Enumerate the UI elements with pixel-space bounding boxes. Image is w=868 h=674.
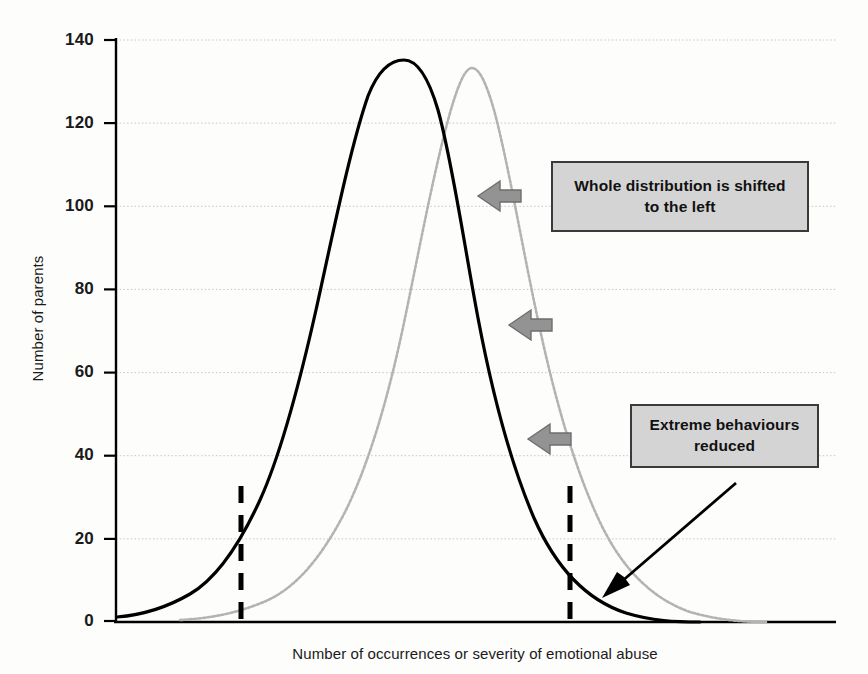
y-axis-title: Number of parents	[29, 219, 46, 419]
ytick-label-0: 0	[34, 611, 94, 631]
callout-extreme-line1: Extreme behaviours	[650, 416, 800, 433]
ytick-label-120: 120	[34, 113, 94, 133]
ytick-label-20: 20	[34, 529, 94, 549]
chart-figure: 140 120 100 80 60 40 20 0 Number of pare…	[0, 0, 868, 674]
chart-plot-area	[0, 0, 868, 674]
extreme-pointer-arrow-icon	[602, 483, 736, 598]
callout-extreme-behaviours: Extreme behaviours reduced	[630, 404, 819, 468]
callout-distribution-shifted: Whole distribution is shifted to the lef…	[551, 161, 809, 232]
shift-arrow-middle-icon	[509, 310, 552, 340]
ytick-label-140: 140	[34, 30, 94, 50]
callout-shift-line2: to the left	[645, 198, 716, 215]
curve-shifted-distribution	[117, 60, 700, 622]
callout-extreme-line2: reduced	[694, 437, 755, 454]
ytick-label-40: 40	[34, 445, 94, 465]
callout-shift-line1: Whole distribution is shifted	[574, 177, 785, 194]
ytick-label-100: 100	[34, 196, 94, 216]
x-axis-title: Number of occurrences or severity of emo…	[116, 645, 834, 662]
